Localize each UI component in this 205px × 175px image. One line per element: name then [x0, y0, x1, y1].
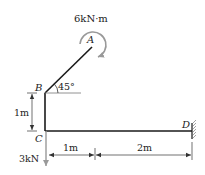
dimension-1m-label: 1m [63, 142, 78, 153]
point-C-label: C [35, 133, 43, 144]
point-B-label: B [34, 82, 42, 93]
point-D-label: D [181, 119, 190, 130]
point-A-label: A [86, 34, 94, 45]
dimension-2m-label: 2m [137, 142, 152, 153]
angle-label: 45° [58, 81, 75, 92]
dimension-vertical-label: 1m [14, 107, 29, 118]
fixed-support-icon [192, 120, 196, 139]
force-label: 3kN [19, 153, 39, 164]
frame-diagram: 45° 6kN·m A B C D 1m 3kN 1m 2m [0, 0, 205, 175]
moment-label: 6kN·m [74, 13, 108, 24]
